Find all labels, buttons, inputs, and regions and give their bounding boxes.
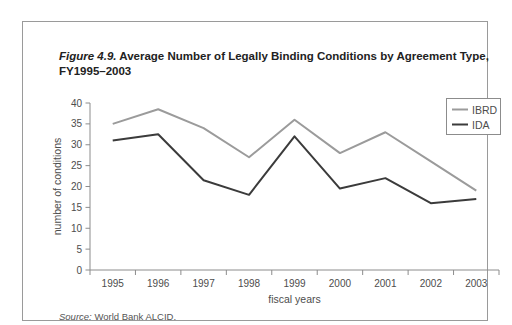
x-tick-label: 2002	[420, 278, 443, 289]
source-note: Source: World Bank ALCID.	[59, 311, 176, 322]
y-tick-label: 15	[71, 202, 83, 213]
figure-box: 0510152025303540199519961997199819992000…	[22, 21, 488, 321]
x-axis-title: fiscal years	[268, 293, 321, 305]
x-tick-label: 2001	[374, 278, 397, 289]
x-tick-label: 2000	[329, 278, 352, 289]
x-tick-label: 1995	[102, 278, 125, 289]
source-label: Source:	[59, 311, 92, 322]
legend-label: IDA	[472, 119, 490, 131]
x-axis: 199519961997199819992000200120022003	[90, 270, 499, 289]
legend-label: IBRD	[472, 104, 498, 116]
x-tick-label: 2003	[465, 278, 488, 289]
y-tick-label: 35	[71, 118, 83, 129]
y-tick-label: 25	[71, 160, 83, 171]
x-tick-label: 1996	[147, 278, 170, 289]
figure-title-line2: FY1995–2003	[59, 65, 131, 77]
y-tick-label: 0	[76, 265, 82, 276]
source-text: World Bank ALCID.	[92, 311, 176, 322]
y-tick-label: 40	[71, 98, 83, 109]
y-tick-label: 20	[71, 181, 83, 192]
series-line-ibrd	[113, 109, 477, 190]
axes	[90, 103, 499, 270]
figure-title-text: Average Number of Legally Binding Condit…	[117, 50, 489, 62]
y-axis-title: number of conditions	[51, 138, 63, 235]
figure-number-label: Figure 4.9.	[59, 50, 117, 62]
y-tick-label: 30	[71, 139, 83, 150]
legend: IBRDIDA	[447, 99, 501, 135]
series-line-ida	[113, 134, 477, 203]
figure-title: Figure 4.9. Average Number of Legally Bi…	[59, 49, 505, 79]
x-tick-label: 1997	[192, 278, 215, 289]
y-tick-label: 5	[76, 244, 82, 255]
x-tick-label: 1998	[238, 278, 261, 289]
x-tick-label: 1999	[283, 278, 306, 289]
y-axis: 0510152025303540	[71, 98, 90, 276]
y-tick-label: 10	[71, 223, 83, 234]
